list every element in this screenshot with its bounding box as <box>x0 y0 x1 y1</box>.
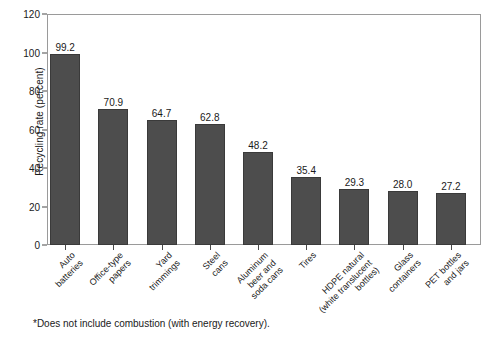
bar-value-label: 48.2 <box>248 140 267 151</box>
y-tick-mark <box>42 14 47 15</box>
x-tick-mark <box>113 245 114 250</box>
x-tick-mark <box>162 245 163 250</box>
bar: 64.7 <box>147 120 177 245</box>
recycling-rate-bar-chart: Recycling rate (percent) 020406080100120… <box>0 0 488 343</box>
y-tick-mark <box>42 129 47 130</box>
x-tick-mark <box>306 245 307 250</box>
bar: 99.2 <box>50 54 80 245</box>
x-tick-mark <box>403 245 404 250</box>
bar-value-label: 99.2 <box>55 42 74 53</box>
x-tick-mark <box>451 245 452 250</box>
bar: 62.8 <box>195 124 225 245</box>
bar: 28.0 <box>388 191 418 245</box>
y-tick-mark <box>42 91 47 92</box>
bar-value-label: 70.9 <box>104 97 123 108</box>
bar-value-label: 35.4 <box>296 165 315 176</box>
plot-area: 02040608010012099.270.964.762.848.235.42… <box>47 14 481 245</box>
y-tick-mark <box>42 245 47 246</box>
bar: 29.3 <box>339 189 369 245</box>
x-tick-mark <box>210 245 211 250</box>
bar: 70.9 <box>98 109 128 245</box>
bar-value-label: 29.3 <box>345 177 364 188</box>
y-tick-mark <box>42 52 47 53</box>
bar: 27.2 <box>436 193 466 245</box>
bar-value-label: 64.7 <box>152 108 171 119</box>
x-tick-mark <box>65 245 66 250</box>
bar-value-label: 28.0 <box>393 179 412 190</box>
y-tick-mark <box>42 206 47 207</box>
bar-value-label: 62.8 <box>200 112 219 123</box>
bar-value-label: 27.2 <box>441 181 460 192</box>
y-tick-mark <box>42 168 47 169</box>
bar: 35.4 <box>291 177 321 245</box>
x-tick-mark <box>258 245 259 250</box>
bar: 48.2 <box>243 152 273 245</box>
x-tick-mark <box>354 245 355 250</box>
